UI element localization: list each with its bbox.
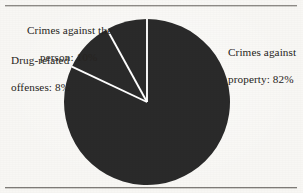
- figure-panel: Crimes against the person: 10% Drug-rela…: [0, 0, 303, 193]
- slice-label-property-line1: Crimes against: [228, 46, 302, 59]
- slice-label-drug-line2: offenses: 8%: [11, 81, 116, 94]
- bottom-rule: [5, 187, 297, 188]
- slice-label-drug-line1: Drug-related: [11, 54, 116, 67]
- slice-label-property-line2: property: 82%: [228, 73, 302, 86]
- slice-label-crimes-against-property: Crimes against property: 82%: [228, 33, 302, 99]
- slice-label-person-line1: Crimes against the: [27, 24, 137, 37]
- slice-label-drug-related-offenses: Drug-related offenses: 8%: [11, 41, 116, 107]
